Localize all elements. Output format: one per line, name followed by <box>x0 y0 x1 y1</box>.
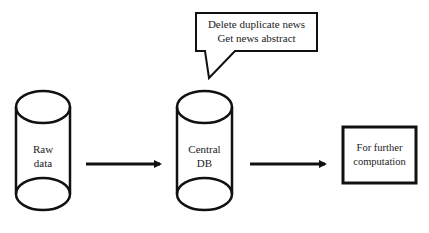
further-computation-line-1: For further <box>343 141 416 155</box>
central-db-label: Central DB <box>177 142 232 170</box>
callout-label: Delete duplicate news Get news abstract <box>196 17 317 45</box>
raw-data-line-1: Raw <box>16 142 70 156</box>
central-db-line-1: Central <box>177 142 232 156</box>
raw-data-label: Raw data <box>16 142 70 170</box>
further-computation-label: For further computation <box>343 141 416 169</box>
central-db-line-2: DB <box>177 156 232 170</box>
raw-data-line-2: data <box>16 156 70 170</box>
further-computation-line-2: computation <box>343 155 416 169</box>
callout-line-1: Delete duplicate news <box>196 17 317 31</box>
callout-line-2: Get news abstract <box>196 31 317 45</box>
